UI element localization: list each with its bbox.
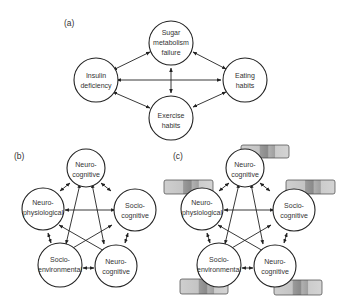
svg-text:Socio-: Socio- — [209, 256, 230, 263]
svg-text:Socio-: Socio- — [125, 202, 146, 209]
svg-text:cognitive: cognitive — [102, 268, 130, 276]
svg-text:cognitive: cognitive — [231, 171, 259, 179]
svg-text:Neuro-: Neuro- — [264, 258, 286, 265]
svg-text:Neuro-: Neuro- — [191, 199, 213, 206]
panel-c-label: (c) — [173, 151, 183, 161]
svg-text:deficiency: deficiency — [80, 82, 112, 90]
panel-a-label: (a) — [64, 18, 75, 28]
node-b-socioenvironmental: Socio- environmental — [38, 243, 82, 287]
svg-text:Insulin: Insulin — [86, 72, 106, 79]
svg-text:habits: habits — [236, 82, 255, 89]
panel-b: (b) Neuro- cognitive Neuro- physiologica… — [14, 149, 156, 287]
svg-text:metabolism: metabolism — [153, 39, 189, 46]
node-c-neurophysiological: Neuro- physiological — [181, 188, 223, 230]
node-b-sociocognitive: Socio- cognitive — [114, 189, 156, 231]
svg-text:environmental: environmental — [197, 266, 241, 273]
node-b-neurophysiological: Neuro- physiological — [22, 188, 64, 230]
node-c-neurocognitive-bottom: Neuro- cognitive — [254, 245, 296, 287]
node-b-neurocognitive-bottom: Neuro- cognitive — [95, 245, 137, 287]
svg-text:failure: failure — [161, 49, 180, 56]
node-eating-habits: Eating habits — [223, 58, 267, 102]
svg-text:Sugar: Sugar — [162, 29, 181, 37]
svg-text:Exercise: Exercise — [158, 112, 185, 119]
node-b-neurocognitive-top: Neuro- cognitive — [67, 149, 105, 187]
svg-text:cognitive: cognitive — [280, 212, 308, 220]
svg-text:environmental: environmental — [38, 266, 82, 273]
svg-text:Socio-: Socio- — [50, 256, 71, 263]
node-sugar-metabolism-failure: Sugar metabolism failure — [149, 21, 193, 65]
svg-text:Neuro-: Neuro- — [234, 161, 256, 168]
svg-text:physiological: physiological — [182, 209, 223, 217]
svg-text:cognitive: cognitive — [121, 212, 149, 220]
svg-text:Neuro-: Neuro- — [75, 161, 97, 168]
panel-b-label: (b) — [14, 151, 25, 161]
panel-a: (a) Sugar metabolism failure Insulin def… — [64, 18, 267, 140]
svg-text:cognitive: cognitive — [72, 171, 100, 179]
svg-text:Socio-: Socio- — [284, 202, 305, 209]
node-c-neurocognitive-top: Neuro- cognitive — [226, 149, 264, 187]
node-c-sociocognitive: Socio- cognitive — [273, 189, 315, 231]
panel-c: (c) Neuro- cognitive Ne — [164, 145, 335, 295]
svg-text:habits: habits — [162, 122, 181, 129]
svg-text:Neuro-: Neuro- — [32, 199, 54, 206]
node-insulin-deficiency: Insulin deficiency — [74, 58, 118, 102]
node-c-socioenvironmental: Socio- environmental — [197, 243, 241, 287]
svg-text:Eating: Eating — [235, 72, 255, 80]
svg-text:Neuro-: Neuro- — [105, 258, 127, 265]
diagram-canvas: (a) Sugar metabolism failure Insulin def… — [0, 0, 347, 303]
node-exercise-habits: Exercise habits — [149, 96, 193, 140]
svg-text:cognitive: cognitive — [261, 268, 289, 276]
svg-text:physiological: physiological — [23, 209, 64, 217]
